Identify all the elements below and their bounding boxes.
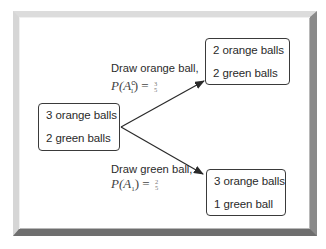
green-branch-text: Draw green ball, xyxy=(111,163,192,176)
orange-draw-result-box: 2 orange balls 2 green balls xyxy=(205,38,290,85)
green-branch-probability: P(A1) = 2 5 xyxy=(111,177,192,196)
probability-fraction: 3 5 xyxy=(154,81,157,93)
probability-fraction: 2 5 xyxy=(155,179,158,191)
orange-branch-text: Draw orange ball, xyxy=(111,62,199,75)
root-state-box: 3 orange balls 2 green balls xyxy=(38,103,120,151)
green-draw-result-box: 3 orange balls 1 green ball xyxy=(206,169,286,216)
root-line-orange: 3 orange balls xyxy=(46,104,119,127)
result-bottom-line-green: 1 green ball xyxy=(214,193,285,216)
result-top-line-green: 2 green balls xyxy=(213,62,289,85)
result-bottom-line-orange: 3 orange balls xyxy=(214,170,285,193)
root-line-green: 2 green balls xyxy=(46,127,119,150)
orange-branch-probability: P(Ac1) = 3 5 xyxy=(111,76,199,98)
result-top-line-orange: 2 orange balls xyxy=(213,39,289,62)
green-branch-label: Draw green ball, P(A1) = 2 5 xyxy=(111,163,192,196)
orange-branch-label: Draw orange ball, P(Ac1) = 3 5 xyxy=(111,62,199,98)
